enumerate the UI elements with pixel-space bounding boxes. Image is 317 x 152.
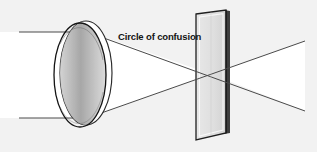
diagram-canvas [0, 0, 317, 152]
convex-lens [54, 21, 112, 127]
optics-diagram-figure: Circle of confusion [0, 0, 317, 152]
circle-of-confusion-label: Circle of confusion [118, 31, 201, 42]
film-plane [196, 10, 230, 140]
